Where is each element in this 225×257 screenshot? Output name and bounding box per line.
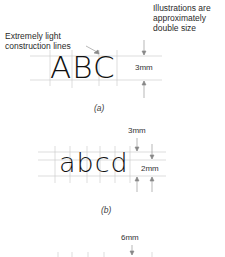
panel-a-caption: (a) [94,103,104,113]
panel-a-dimension: 3mm [135,63,153,72]
construction-lines-callout: Extremely light construction lines [5,31,71,51]
panel-a-caption-letter: a [97,103,102,113]
panel-b-dimension-side: 2mm [141,164,159,173]
panel-b-caption-letter: b [104,205,109,215]
scale-note-line-2: approximately [153,13,211,23]
lowercase-sample-letters: abcd [59,149,129,177]
scale-note-line-1: Illustrations are [153,3,211,13]
scale-note-line-3: double size [153,23,211,33]
scale-note: Illustrations are approximately double s… [153,3,211,33]
panel-c-dimension-top: 6mm [121,233,139,242]
uppercase-sample-letters: ABC [50,51,116,83]
panel-b-dimension-top: 3mm [128,126,146,135]
callout-line-1: Extremely light [5,31,71,41]
panel-b-caption: (b) [101,205,111,215]
